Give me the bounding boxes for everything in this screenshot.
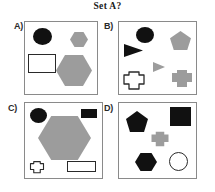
panel-b-black-circle	[136, 27, 154, 43]
panel-b[interactable]	[118, 21, 197, 95]
panel-b-white-star-octagon	[123, 71, 145, 91]
panel-b-gray-heptagon	[171, 69, 193, 89]
panel-b-gray-triangle-small	[153, 62, 165, 72]
panel-b-gray-pentagon	[170, 31, 191, 50]
panel-c-black-circle	[30, 108, 47, 123]
panel-label-b: B)	[104, 21, 113, 31]
figure-title: Set A?	[0, 1, 215, 11]
panel-label-d: D)	[104, 103, 113, 113]
panel-label-a: A)	[14, 21, 23, 31]
panel-a[interactable]	[24, 21, 98, 95]
panel-c-white-rectangle	[67, 161, 96, 172]
panel-c[interactable]	[24, 102, 103, 179]
panel-a-black-circle	[33, 28, 52, 45]
panel-d-black-hexagon	[135, 153, 157, 171]
panel-c-white-star-octagon-small	[29, 161, 45, 174]
panel-d-black-pentagon	[126, 111, 148, 132]
panel-d-black-square	[170, 107, 191, 126]
panel-label-c: C)	[8, 103, 17, 113]
panel-c-gray-hexagon-large	[38, 116, 91, 160]
panel-a-white-rectangle	[28, 54, 56, 73]
panel-d[interactable]	[118, 102, 197, 179]
panel-d-gray-star-octagon	[149, 131, 171, 148]
panel-c-black-rectangle	[81, 109, 97, 118]
figure-canvas: Set A? A) B) C) D)	[0, 0, 215, 192]
panel-b-black-triangle	[124, 44, 143, 57]
panel-a-gray-hexagon-large	[56, 55, 92, 86]
panel-d-white-circle	[169, 152, 188, 171]
panel-a-gray-hexagon-small	[70, 32, 88, 47]
